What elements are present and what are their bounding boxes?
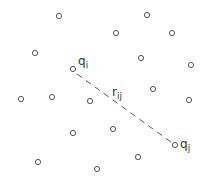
- particle-circle-icon: [113, 30, 118, 35]
- particle-circle-icon: [32, 50, 37, 55]
- particle-circle-icon: [138, 55, 143, 60]
- label-qi-base: q: [78, 54, 86, 68]
- particle-circle-icon: [110, 126, 115, 131]
- particle-qi-circle-icon: [70, 66, 75, 71]
- particle-circle-icon: [150, 86, 155, 91]
- particle-diagram: qi rij qj: [0, 0, 203, 187]
- label-qj: qj: [180, 137, 190, 153]
- label-qj-base: q: [180, 137, 188, 151]
- particle-circle-icon: [169, 30, 174, 35]
- svg-text:qj: qj: [180, 137, 190, 153]
- particle-circle-icon: [135, 154, 140, 159]
- particle-circle-icon: [56, 13, 61, 18]
- label-qi-sub: i: [86, 60, 89, 70]
- particle-circle-icon: [186, 97, 191, 102]
- particles-group: [18, 12, 193, 171]
- label-qj-sub: j: [187, 143, 191, 153]
- particle-circle-icon: [188, 62, 193, 67]
- particle-circle-icon: [18, 96, 23, 101]
- svg-text:qi: qi: [78, 54, 88, 70]
- particle-circle-icon: [70, 130, 75, 135]
- diagram-canvas: qi rij qj: [0, 0, 203, 187]
- particle-qj-circle-icon: [172, 142, 177, 147]
- label-qi: qi: [78, 54, 88, 70]
- particle-circle-icon: [35, 159, 40, 164]
- svg-text:rij: rij: [112, 85, 122, 101]
- label-rij: rij: [112, 85, 122, 101]
- particle-circle-icon: [49, 94, 54, 99]
- particle-circle-icon: [144, 12, 149, 17]
- particle-circle-icon: [94, 166, 99, 171]
- particle-circle-icon: [87, 98, 92, 103]
- label-rij-sub: ij: [117, 91, 122, 101]
- distance-line-rij: [77, 74, 171, 142]
